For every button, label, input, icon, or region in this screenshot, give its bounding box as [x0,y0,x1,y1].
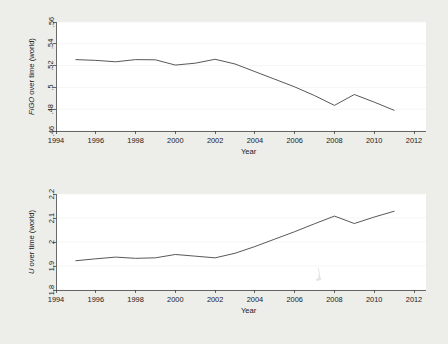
x-axis-title: Year [241,306,257,315]
chart-panel-top: .46.48.5.52.54.5619941996199820002002200… [0,0,448,172]
x-tick-label-7: 2008 [326,136,342,145]
y-tick-label-3: .52 [47,60,56,70]
x-tick-label-8: 2010 [366,136,382,145]
x-tick-label-1: 1996 [88,136,104,145]
y-tick-label-1: 1.9 [47,261,56,271]
y-tick-label-5: .56 [47,17,56,27]
line-chart-bottom: 1.81.922.12.2199419961998200020022004200… [0,172,448,344]
x-tick-label-0: 1994 [48,295,64,304]
x-tick-label-3: 2000 [167,295,183,304]
chart-panel-bottom: 1.81.922.12.2199419961998200020022004200… [0,172,448,344]
y-tick-label-3: 2.1 [47,213,56,223]
x-tick-label-8: 2010 [366,295,382,304]
x-tick-label-2: 1998 [127,136,143,145]
y-axis-title: FiGO over time (world) [27,38,36,115]
x-tick-label-7: 2008 [326,295,342,304]
line-chart-top: .46.48.5.52.54.5619941996199820002002200… [0,0,448,172]
x-tick-label-0: 1994 [48,136,64,145]
x-tick-label-5: 2004 [247,295,263,304]
y-tick-label-2: 2 [47,240,56,244]
x-axis-title: Year [241,147,257,156]
y-tick-label-4: 2.2 [47,189,56,199]
x-tick-label-4: 2002 [207,295,223,304]
x-tick-label-6: 2006 [286,295,302,304]
x-tick-label-1: 1996 [88,295,104,304]
y-tick-label-4: .54 [47,39,56,49]
y-axis-title: U over time (world) [27,209,36,274]
x-tick-label-2: 1998 [127,295,143,304]
figure-page: .46.48.5.52.54.5619941996199820002002200… [0,0,448,344]
x-tick-label-5: 2004 [247,136,263,145]
x-tick-label-9: 2012 [406,136,422,145]
x-tick-label-6: 2006 [286,136,302,145]
y-tick-label-2: .5 [47,84,56,90]
y-tick-label-1: .48 [47,104,56,114]
x-tick-label-4: 2002 [207,136,223,145]
x-tick-label-3: 2000 [167,136,183,145]
x-tick-label-9: 2012 [406,295,422,304]
plot-background [56,22,426,131]
